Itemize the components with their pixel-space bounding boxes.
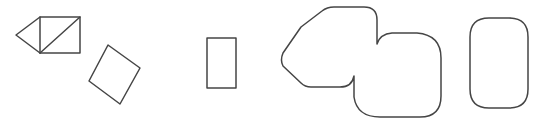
- square-diagonal: [40, 17, 80, 53]
- rounded-rectangle-outline: [470, 18, 528, 108]
- shapes-svg: [0, 0, 545, 128]
- shape-group-square-with-diagonal-and-triangle[interactable]: [16, 17, 80, 53]
- shape-group-small-vertical-rectangle[interactable]: [207, 38, 236, 88]
- left-triangle: [16, 17, 40, 53]
- shape-group-rotated-rectangle[interactable]: [89, 45, 140, 104]
- shape-group-rounded-rectangle[interactable]: [470, 18, 528, 108]
- shape-canvas-root: [0, 0, 545, 128]
- rotated-rectangle-outline: [89, 45, 140, 104]
- vertical-rectangle-outline: [207, 38, 236, 88]
- union-outline: [282, 7, 442, 117]
- shape-group-overlapping-rounded-polygons[interactable]: [282, 7, 442, 117]
